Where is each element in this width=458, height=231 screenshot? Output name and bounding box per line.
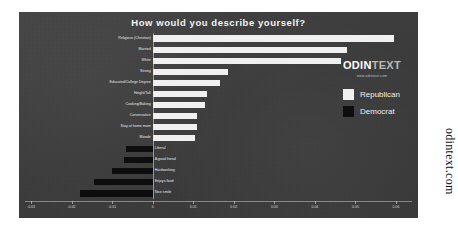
bar-row: [19, 157, 418, 163]
bar-category-label: Married: [138, 48, 150, 52]
x-tick-label: 0.04: [311, 205, 318, 209]
bar-category-label: Stay at home mom: [121, 125, 151, 129]
x-tick-label: 0.05: [352, 205, 359, 209]
bar-row: [19, 168, 418, 174]
bar-category-label: Blonde: [139, 136, 150, 140]
x-tick-mark: [193, 201, 194, 204]
x-tick-mark: [112, 201, 113, 204]
bar-category-label: Liberal: [155, 147, 166, 151]
bar-row: [19, 146, 418, 152]
bar-democrat[interactable]: [112, 168, 153, 174]
bar-republican[interactable]: [153, 47, 348, 53]
bar-row: [19, 190, 418, 196]
odintext-logo[interactable]: ODINTEXT: [343, 60, 401, 71]
x-tick-label: 0.06: [393, 205, 400, 209]
x-axis-baseline: [25, 201, 412, 202]
x-axis: -0.03-0.02-0.0100.010.020.030.040.050.06: [19, 201, 418, 215]
legend-label: Republican: [360, 90, 400, 99]
chart-panel: How would you describe yourself? Religio…: [19, 12, 418, 218]
legend-label: Democrat: [360, 107, 395, 116]
bar-republican[interactable]: [153, 102, 206, 108]
watermark-text: odintext.com: [442, 128, 457, 195]
x-tick-mark: [31, 201, 32, 204]
bar-category-label: Cooking/Baking: [125, 103, 150, 107]
bar-category-label: Height/Tall: [134, 92, 151, 96]
logo-url-text: www.odintext.com: [343, 74, 401, 78]
logo-secondary-text: TEXT: [372, 59, 401, 71]
legend-item[interactable]: Democrat: [343, 106, 401, 117]
bar-republican[interactable]: [153, 58, 342, 64]
bar-row: [19, 47, 418, 53]
bar-democrat[interactable]: [124, 157, 152, 163]
figure-canvas: How would you describe yourself? Religio…: [0, 0, 458, 231]
bar-category-label: Nice smile: [155, 192, 172, 196]
x-tick-label: -0.03: [27, 205, 35, 209]
bar-row: [19, 124, 418, 130]
x-tick-mark: [153, 201, 154, 204]
x-tick-mark: [274, 201, 275, 204]
bar-republican[interactable]: [153, 113, 198, 119]
zero-axis-line: [153, 33, 154, 199]
bar-republican[interactable]: [153, 80, 220, 86]
bar-category-label: Religious (Christian): [118, 37, 150, 41]
x-tick-mark: [72, 201, 73, 204]
bar-category-label: Hardworking: [155, 170, 175, 174]
bar-category-label: Conservative: [130, 114, 151, 118]
bar-republican[interactable]: [153, 124, 198, 130]
x-tick-label: -0.02: [68, 205, 76, 209]
x-tick-mark: [355, 201, 356, 204]
x-tick-label: 0.01: [190, 205, 197, 209]
bar-category-label: Enjoys food: [155, 181, 174, 185]
legend-item[interactable]: Republican: [343, 89, 401, 100]
bar-category-label: Strong: [140, 70, 151, 74]
chart-title: How would you describe yourself?: [19, 17, 418, 28]
x-tick-label: -0.01: [108, 205, 116, 209]
bar-category-label: Educated/College Degree: [110, 81, 151, 85]
x-tick-label: 0.03: [271, 205, 278, 209]
x-tick-mark: [396, 201, 397, 204]
x-tick-label: 0: [152, 205, 154, 209]
bar-category-label: A good friend: [155, 158, 176, 162]
republican-swatch: [343, 89, 354, 100]
democrat-swatch: [343, 106, 354, 117]
x-tick-mark: [315, 201, 316, 204]
x-tick-mark: [234, 201, 235, 204]
logo-primary-text: ODIN: [343, 59, 372, 71]
bar-democrat[interactable]: [94, 179, 153, 185]
bar-democrat[interactable]: [126, 146, 152, 152]
bar-democrat[interactable]: [80, 190, 153, 196]
bar-category-label: White: [141, 59, 150, 63]
bar-row: [19, 179, 418, 185]
bar-row: [19, 35, 418, 41]
x-tick-label: 0.02: [230, 205, 237, 209]
bar-republican[interactable]: [153, 35, 394, 41]
chart-legend: RepublicanDemocrat: [343, 89, 401, 117]
bar-republican[interactable]: [153, 135, 196, 141]
brand-block: ODINTEXT www.odintext.com RepublicanDemo…: [343, 60, 401, 123]
bar-republican[interactable]: [153, 91, 208, 97]
bar-row: [19, 135, 418, 141]
bar-republican[interactable]: [153, 69, 228, 75]
